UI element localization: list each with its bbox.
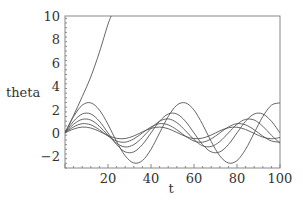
- series-line-runaway: [65, 14, 112, 133]
- series-line-amplitude-1.2: [65, 119, 280, 147]
- x-tick-label: 100: [268, 171, 293, 186]
- x-axis-label: t: [168, 181, 174, 196]
- y-tick-label: 10: [43, 9, 60, 24]
- y-tick-label: 6: [52, 56, 60, 71]
- y-tick-label: 8: [52, 32, 60, 47]
- series-line-amplitude-2.6: [65, 103, 280, 164]
- x-tick-labels: 20 40 60 80 100: [100, 171, 293, 186]
- y-tick-label: 4: [52, 79, 60, 94]
- x-tick-label: 80: [229, 171, 246, 186]
- x-tick-label: 20: [100, 171, 117, 186]
- y-tick-label: 0: [52, 126, 60, 141]
- y-axis-label: theta: [6, 85, 41, 100]
- y-tick-labels: −2 0 2 4 6 8 10: [41, 9, 60, 164]
- theta-vs-t-chart: 20 40 60 80 100 −2 0 2 4 6 8 10 t theta: [0, 0, 303, 201]
- y-tick-label: 2: [52, 103, 60, 118]
- x-tick-label: 60: [186, 171, 203, 186]
- y-tick-label: −2: [41, 149, 60, 164]
- series-line-amplitude-0.8: [65, 124, 280, 143]
- series-curves: [65, 14, 280, 164]
- x-tick-label: 40: [143, 171, 160, 186]
